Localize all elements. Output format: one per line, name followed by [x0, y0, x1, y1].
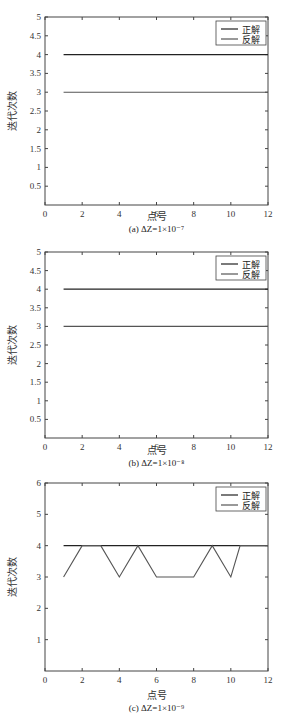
chart-caption: (b) ΔZ=1×10⁻⁸	[129, 458, 185, 468]
x-tick-label: 4	[117, 442, 122, 452]
y-tick-label: 3.5	[30, 68, 42, 78]
x-tick-label: 8	[191, 209, 196, 219]
legend: 正解反解	[216, 21, 266, 45]
x-axis-label: 点号	[147, 445, 167, 456]
y-tick-label: 0.5	[30, 181, 42, 191]
legend-label: 正解	[242, 24, 260, 35]
y-tick-label: 0.5	[30, 414, 42, 424]
y-tick-label: 4	[37, 541, 42, 551]
legend-label: 反解	[242, 500, 260, 511]
chart-a: 0.511.522.533.544.55024681012正解反解迭代次数点号(…	[0, 0, 283, 240]
y-tick-label: 1	[37, 396, 42, 406]
chart-panel-a: 0.511.522.533.544.55024681012正解反解迭代次数点号(…	[0, 0, 283, 240]
chart-panel-b: 0.511.522.533.544.55024681012正解反解迭代次数点号(…	[0, 240, 283, 473]
x-tick-label: 0	[43, 209, 48, 219]
y-tick-label: 3	[37, 321, 42, 331]
chart-b: 0.511.522.533.544.55024681012正解反解迭代次数点号(…	[0, 240, 283, 473]
y-tick-label: 2	[37, 603, 42, 613]
y-tick-label: 6	[37, 478, 42, 488]
x-tick-label: 4	[117, 209, 122, 219]
y-tick-label: 3	[37, 572, 42, 582]
y-tick-label: 1	[37, 635, 42, 645]
x-tick-label: 6	[154, 675, 159, 685]
y-tick-label: 4.5	[30, 31, 42, 41]
x-tick-label: 12	[264, 675, 273, 685]
x-tick-label: 4	[117, 675, 122, 685]
y-tick-label: 2	[37, 359, 42, 369]
y-tick-label: 2.5	[30, 340, 42, 350]
x-axis-label: 点号	[147, 690, 167, 701]
legend-label: 反解	[242, 269, 260, 280]
y-axis-label: 迭代次数	[6, 325, 18, 365]
y-tick-label: 5	[37, 12, 42, 22]
legend: 正解反解	[216, 256, 266, 280]
y-tick-label: 2	[37, 125, 42, 135]
x-tick-label: 8	[191, 675, 196, 685]
x-tick-label: 10	[226, 675, 236, 685]
x-tick-label: 2	[80, 442, 85, 452]
y-tick-label: 5	[37, 509, 42, 519]
y-tick-label: 4.5	[30, 266, 42, 276]
y-tick-label: 1.5	[30, 377, 42, 387]
chart-caption: (c) ΔZ=1×10⁻⁹	[129, 703, 184, 713]
x-tick-label: 10	[226, 209, 236, 219]
y-tick-label: 2.5	[30, 106, 42, 116]
x-tick-label: 12	[264, 209, 273, 219]
x-tick-label: 2	[80, 209, 85, 219]
y-tick-label: 5	[37, 247, 42, 257]
y-axis-label: 迭代次数	[6, 91, 18, 131]
y-tick-label: 1.5	[30, 144, 42, 154]
x-tick-label: 2	[80, 675, 85, 685]
y-tick-label: 4	[37, 284, 42, 294]
chart-c: 123456024681012正解反解迭代次数点号(c) ΔZ=1×10⁻⁹	[0, 473, 283, 720]
y-axis-label: 迭代次数	[6, 557, 18, 597]
y-tick-label: 3	[37, 87, 42, 97]
y-tick-label: 4	[37, 50, 42, 60]
x-tick-label: 0	[43, 442, 48, 452]
legend: 正解反解	[216, 487, 266, 511]
y-tick-label: 3.5	[30, 303, 42, 313]
chart-caption: (a) ΔZ=1×10⁻⁷	[129, 224, 184, 234]
legend-label: 正解	[242, 490, 260, 501]
x-tick-label: 10	[226, 442, 236, 452]
x-tick-label: 8	[191, 442, 196, 452]
legend-label: 正解	[242, 259, 260, 270]
x-tick-label: 0	[43, 675, 48, 685]
x-tick-label: 12	[264, 442, 273, 452]
chart-panel-c: 123456024681012正解反解迭代次数点号(c) ΔZ=1×10⁻⁹	[0, 473, 283, 720]
x-axis-label: 点号	[147, 211, 167, 222]
legend-label: 反解	[242, 34, 260, 45]
y-tick-label: 1	[37, 162, 42, 172]
